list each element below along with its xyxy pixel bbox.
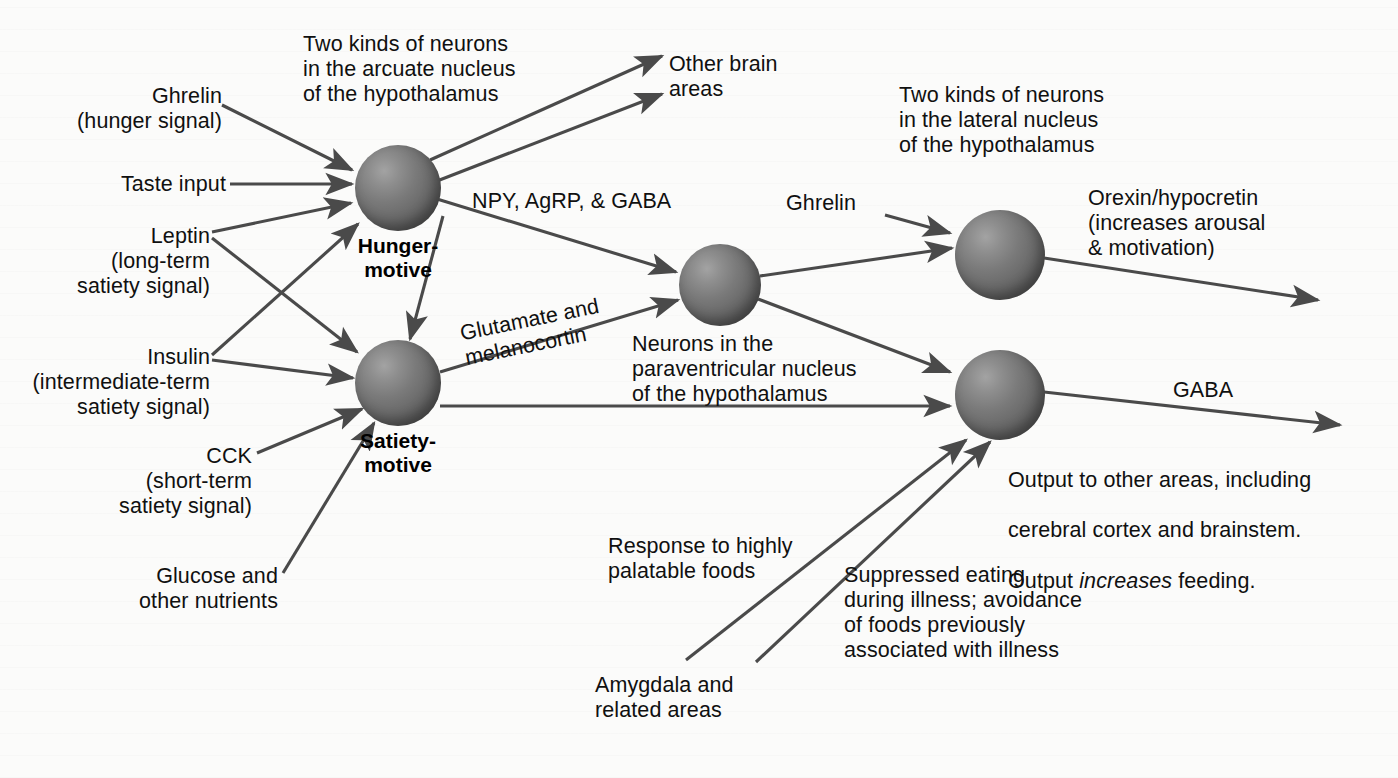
- node-lateral-nucleus-orexin[interactable]: [955, 210, 1045, 300]
- node-label-satiety-motive: Satiety- motive: [328, 429, 468, 477]
- node-label-hunger-motive: Hunger- motive: [328, 234, 468, 282]
- label-lateral-nucleus-note: Two kinds of neurons in the lateral nucl…: [899, 83, 1239, 158]
- node-hunger-motive[interactable]: [355, 145, 441, 231]
- label-glucose-and-other-nutrients: Glucose and other nutrients: [0, 564, 278, 614]
- label-ghrelin-hunger-signal: Ghrelin (hunger signal): [0, 84, 222, 134]
- label-ghrelin-right: Ghrelin: [786, 191, 906, 216]
- label-cck: CCK (short-term satiety signal): [0, 444, 252, 519]
- label-npy-agrp-gaba: NPY, AgRP, & GABA: [472, 189, 732, 214]
- output-line-3-suffix: feeding.: [1172, 569, 1255, 593]
- node-satiety-motive[interactable]: [355, 340, 441, 426]
- figure-canvas: Hunger- motive Satiety- motive Ghrelin (…: [0, 0, 1398, 778]
- label-amygdala-and-related-areas: Amygdala and related areas: [595, 673, 865, 723]
- node-paraventricular-nucleus[interactable]: [679, 244, 761, 326]
- label-orexin-hypocretin: Orexin/hypocretin (increases arousal & m…: [1088, 186, 1388, 261]
- label-taste-input: Taste input: [0, 172, 226, 197]
- arrow-ghrelin-to-lateral-upper: [885, 215, 950, 233]
- label-gaba-output: GABA: [1173, 378, 1283, 403]
- label-suppressed-eating-illness: Suppressed eating during illness; avoida…: [844, 563, 1174, 664]
- arrow-leptin-to-hunger: [212, 203, 351, 232]
- output-line-1: Output to other areas, including: [1008, 468, 1311, 492]
- label-arcuate-nucleus-note: Two kinds of neurons in the arcuate nucl…: [303, 32, 663, 107]
- label-other-brain-areas: Other brain areas: [669, 52, 889, 102]
- label-leptin: Leptin (long-term satiety signal): [0, 224, 210, 299]
- arrow-ghrelin-to-hunger: [222, 105, 352, 170]
- output-line-2: cerebral cortex and brainstem.: [1008, 518, 1301, 542]
- label-insulin: Insulin (intermediate-term satiety signa…: [0, 345, 210, 420]
- node-lateral-nucleus-gaba[interactable]: [955, 350, 1045, 440]
- label-paraventricular-nucleus-note: Neurons in the paraventricular nucleus o…: [632, 332, 962, 407]
- arrow-insulin-to-satiety: [212, 360, 353, 378]
- arrow-orexin-output: [1044, 258, 1318, 300]
- arrow-paraventricular-to-lateral-upper: [760, 248, 952, 276]
